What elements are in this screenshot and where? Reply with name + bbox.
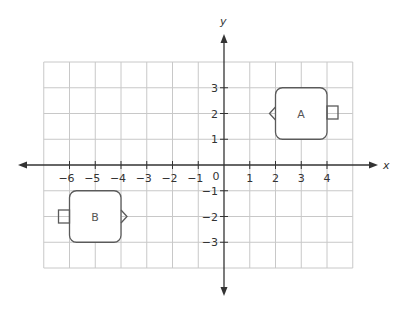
- x-tick-label: 3: [298, 172, 305, 185]
- x-tick-label: −4: [110, 172, 126, 185]
- y-axis-label: y: [219, 15, 227, 28]
- y-tick-label: −2: [202, 211, 218, 224]
- x-tick-label: −2: [161, 172, 177, 185]
- y-axis-up-arrow-icon: [221, 34, 228, 43]
- x-tick-label: 2: [272, 172, 279, 185]
- x-tick-label: −6: [58, 172, 74, 185]
- x-tick-label: −1: [187, 172, 203, 185]
- y-tick-label: −3: [202, 236, 218, 249]
- x-tick-label: −3: [136, 172, 152, 185]
- coordinate-plane-svg: x y −6−5−4−3−2−11234321−1−2−3 0 A B: [0, 0, 410, 312]
- y-axis-down-arrow-icon: [221, 287, 228, 296]
- origin-label: 0: [213, 170, 220, 183]
- x-axis-label: x: [382, 159, 390, 172]
- x-tick-label: 4: [324, 172, 331, 185]
- coordinate-plane-diagram: x y −6−5−4−3−2−11234321−1−2−3 0 A B: [0, 0, 410, 312]
- y-tick-label: 1: [211, 133, 218, 146]
- axes: x y: [18, 15, 390, 296]
- y-tick-label: 2: [211, 108, 218, 121]
- shape-b-label: B: [91, 211, 99, 224]
- x-tick-label: −5: [84, 172, 100, 185]
- shape-a-label: A: [297, 108, 305, 121]
- shape-a-right-square-icon: [327, 106, 338, 119]
- y-tick-label: −1: [202, 185, 218, 198]
- y-tick-label: 3: [211, 82, 218, 95]
- x-axis-left-arrow-icon: [18, 162, 27, 169]
- x-tick-label: 1: [246, 172, 253, 185]
- x-axis-right-arrow-icon: [369, 162, 378, 169]
